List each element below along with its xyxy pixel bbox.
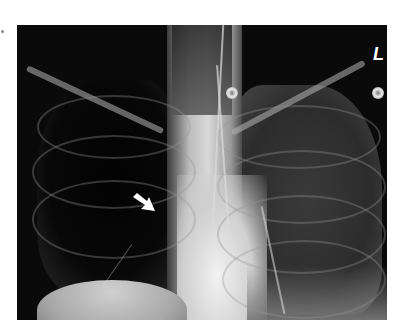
rib: [32, 180, 196, 259]
ecg-electrode: [372, 87, 384, 99]
ecg-electrode: [226, 87, 238, 99]
chest-xray-image: L: [17, 25, 387, 320]
edge-mark: [1, 30, 4, 33]
rib: [222, 240, 386, 319]
arrow-annotation-icon: [131, 193, 157, 213]
side-marker: L: [373, 45, 387, 63]
